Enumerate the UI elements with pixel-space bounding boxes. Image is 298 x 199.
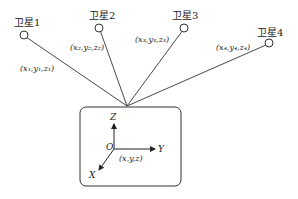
satellite-2-icon xyxy=(95,24,103,32)
satellite-1-icon xyxy=(20,31,28,39)
satellite-1-coord: (x₁,y₁,z₁) xyxy=(20,64,54,73)
satellite-4-coord: (x₄,y₄,z₄) xyxy=(216,43,250,52)
origin-label: O xyxy=(106,142,114,152)
satellite-2-label: 卫星2 xyxy=(89,10,115,21)
satellite-1-label: 卫星1 xyxy=(14,17,40,28)
satellite-positioning-diagram: 卫星1 卫星2 卫星3 卫星4 (x₁,y₁,z₁) (x₂,y₂,z₂) (x… xyxy=(0,0,298,199)
satellite-3-icon xyxy=(180,24,188,32)
y-axis-label: Y xyxy=(158,144,165,154)
satellite-3-label: 卫星3 xyxy=(172,10,198,21)
signal-line-4 xyxy=(127,45,266,106)
satellite-4-label: 卫星4 xyxy=(257,27,283,38)
receiver-coord: (x,y,z) xyxy=(119,154,143,163)
satellite-2-coord: (x₂,y₂,z₂) xyxy=(70,43,104,52)
x-axis-label: X xyxy=(88,170,96,180)
satellite-4-icon xyxy=(265,39,273,47)
z-axis-label: Z xyxy=(109,112,117,122)
signal-line-2 xyxy=(100,30,127,106)
satellite-3-coord: (x₃,y₃,z₃) xyxy=(135,35,169,44)
